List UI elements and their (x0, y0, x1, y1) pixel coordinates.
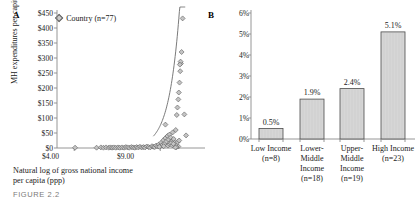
bar-category-label-line: (n=23) (367, 154, 417, 164)
bar-value-label: 0.5% (251, 118, 291, 127)
bar-category-label-line: (n=19) (326, 174, 378, 184)
x-tick-label-2: $9.00 (117, 152, 134, 161)
bar-value-label: 1.9% (292, 88, 332, 97)
bar-category-label-line: High Income (367, 144, 417, 154)
bar-value-label: 2.4% (332, 78, 372, 87)
panel-a-scatter-chart: A MH expenditures per capita $450 $400 $… (0, 0, 207, 201)
panel-a-x-axis-caption-line2: per capita (ppp) (13, 176, 65, 187)
bar-category-label-line: Income (326, 164, 378, 174)
bar-category-label: High Income(n=23) (367, 144, 417, 164)
x-tick-label-1: $4.00 (42, 152, 59, 161)
panel-a-plot-area (0, 0, 207, 160)
panel-b-bar-chart: B 6% 5% 4% 3% 2% 1% 0% 0.5% 1.9% 2.4% 5.… (207, 0, 417, 201)
figure-caption: FIGURE 2.2 (13, 190, 60, 199)
bar-value-label: 5.1% (373, 21, 413, 30)
figure-container: A MH expenditures per capita $450 $400 $… (0, 0, 417, 201)
panel-a-x-axis-caption-line1: Natural log of gross national income (13, 166, 133, 177)
